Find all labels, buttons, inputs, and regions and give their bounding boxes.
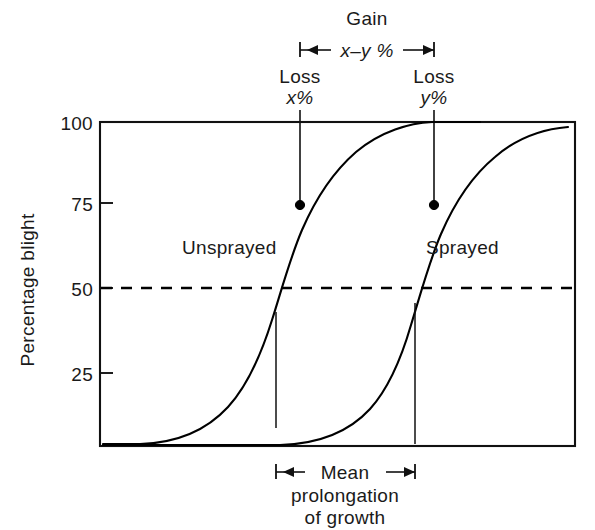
y-axis-title: Percentage blight <box>17 213 38 366</box>
loss-left-value-label: x% <box>286 87 314 108</box>
y-tick-label-100: 100 <box>60 113 93 134</box>
gain-annotation-group: Gain x–y % <box>300 8 434 61</box>
loss-left-annotation-group: Loss x% <box>279 66 320 205</box>
marker-dot-sprayed-loss <box>429 200 438 209</box>
y-tick-label-75: 75 <box>71 194 93 215</box>
loss-left-title-label: Loss <box>279 66 320 87</box>
mean-arrow-right-head <box>404 467 415 477</box>
series-label-unsprayed: Unsprayed <box>182 237 277 258</box>
y-tick-label-50: 50 <box>71 279 93 300</box>
mean-prolongation-line2: prolongation <box>291 485 399 506</box>
gain-title-label: Gain <box>346 8 387 29</box>
series-label-sprayed: Sprayed <box>426 237 499 258</box>
figure-root: Gain x–y % Loss x% Loss y% <box>0 0 595 530</box>
gain-arrow-right-head <box>423 45 434 55</box>
loss-right-title-label: Loss <box>413 66 454 87</box>
loss-right-value-label: y% <box>419 87 448 108</box>
blight-progress-chart: Gain x–y % Loss x% Loss y% <box>0 0 595 530</box>
gain-value-label: x–y % <box>339 40 393 61</box>
mean-arrow-left-head <box>283 467 294 477</box>
mean-prolongation-annotation-group: Mean prolongation of growth <box>276 462 415 528</box>
loss-right-annotation-group: Loss y% <box>413 66 454 205</box>
gain-arrow-left-head <box>307 45 318 55</box>
y-tick-label-25: 25 <box>71 364 93 385</box>
y-axis-tick-labels: 100 75 50 25 <box>60 113 93 385</box>
marker-dot-unsprayed-loss <box>295 200 304 209</box>
mean-prolongation-line1: Mean <box>321 462 370 483</box>
mean-prolongation-line3: of growth <box>305 507 386 528</box>
